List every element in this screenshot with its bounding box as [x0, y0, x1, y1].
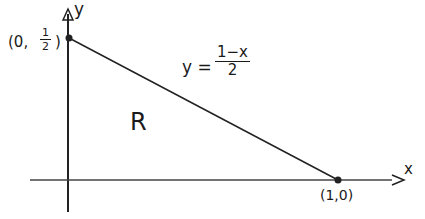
point-label-x-intercept: (1,0) — [320, 187, 353, 203]
x-axis-label: x — [404, 160, 413, 178]
x-axis-arrow-icon — [392, 175, 404, 185]
equation-denominator: 2 — [228, 62, 238, 78]
equation-numerator: 1−x — [215, 45, 250, 62]
fraction-numerator: 1 — [40, 27, 51, 40]
point-y-intercept — [66, 35, 73, 42]
fraction-denominator: 2 — [42, 40, 49, 52]
point-label-prefix: (0, — [8, 33, 28, 51]
y-axis-label: y — [74, 0, 84, 19]
point-label-fraction: 1 2 — [40, 27, 51, 52]
point-x-intercept — [335, 177, 342, 184]
point-label-suffix: ) — [55, 33, 61, 51]
equation-lhs: y = — [182, 57, 212, 77]
diagram-canvas — [0, 0, 425, 219]
equation-fraction: 1−x 2 — [215, 45, 250, 78]
region-label: R — [130, 108, 147, 136]
